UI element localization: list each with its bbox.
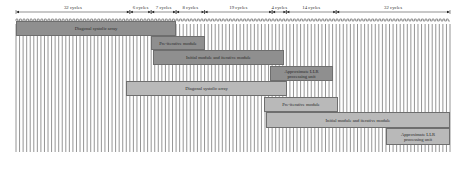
segment-label: 4 cycles bbox=[271, 5, 287, 10]
stage-label: Diagonal systolic array bbox=[185, 86, 228, 91]
segment-label: 7 cycles bbox=[156, 5, 172, 10]
pipeline-stage-bar: Diagonal systolic array bbox=[126, 81, 287, 96]
segment-arrow bbox=[176, 10, 204, 14]
segment-arrow bbox=[205, 10, 273, 14]
stage-label: Pre-iterative module bbox=[282, 102, 320, 107]
stage-label: Approximate LLR processing unit bbox=[284, 69, 318, 79]
segment-label: 6 cycles bbox=[133, 5, 149, 10]
stage-label: Initial module and iterative module bbox=[326, 118, 391, 123]
stage-label: Approximate LLR processing unit bbox=[401, 132, 435, 142]
pipeline-stage-bar: Approximate LLR processing unit bbox=[270, 66, 333, 81]
pipeline-stage-bar: Initial module and iterative module bbox=[153, 50, 284, 65]
segment-arrow bbox=[151, 10, 176, 14]
segment-arrow bbox=[336, 10, 450, 14]
stage-label: Initial module and iterative module bbox=[186, 55, 251, 60]
segment-label: 32 cycles bbox=[384, 5, 402, 10]
segment-label: 8 cycles bbox=[183, 5, 199, 10]
timing-diagram: 32 cycles6 cycles7 cycles8 cycles19 cycl… bbox=[0, 0, 466, 180]
segment-arrow bbox=[16, 10, 130, 14]
segment-label: 32 cycles bbox=[64, 5, 82, 10]
segment-label: 14 cycles bbox=[302, 5, 320, 10]
pipeline-stage-bar: Approximate LLR processing unit bbox=[386, 128, 450, 145]
pipeline-stage-bar: Initial module and iterative module bbox=[266, 112, 450, 128]
pipeline-stage-bar: Pre-iterative module bbox=[151, 36, 205, 50]
segment-arrow bbox=[286, 10, 336, 14]
segment-label: 19 cycles bbox=[229, 5, 247, 10]
stage-label: Diagonal systolic array bbox=[75, 26, 118, 31]
segment-arrow bbox=[272, 10, 286, 14]
pipeline-stage-bar: Pre-iterative module bbox=[264, 97, 338, 112]
stage-label: Pre-iterative module bbox=[159, 41, 197, 46]
pipeline-stage-bar: Diagonal systolic array bbox=[16, 21, 176, 36]
segment-arrow bbox=[130, 10, 151, 14]
